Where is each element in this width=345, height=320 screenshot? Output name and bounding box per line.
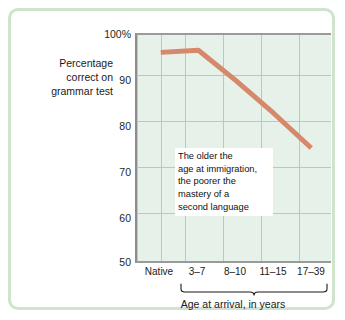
figure-frame: Percentage correct on grammar test 100% … [8,8,335,310]
y-axis-title: Percentage correct on grammar test [25,57,113,99]
y-axis-title-line: grammar test [25,85,113,99]
x-tick-label: 17–39 [297,267,325,277]
annotation-line: mastery of a [178,188,270,201]
x-tick-label: 3–7 [189,267,206,277]
y-tick-label: 60 [119,213,131,224]
y-tick-label: 70 [119,167,131,178]
y-tick-label: 80 [119,121,131,132]
y-tick-label: 50 [119,257,131,268]
annotation-line: age at immigration, [178,163,270,176]
y-axis-tick-labels: 100% 90 80 70 60 50 [101,33,131,263]
annotation-callout: The older the age at immigration, the po… [175,148,273,216]
y-tick-label: 100% [104,29,131,40]
y-axis-title-line: Percentage [25,57,113,71]
annotation-line: second language [178,201,270,214]
x-tick-label: 8–10 [224,267,246,277]
annotation-line: The older the [178,150,270,163]
x-axis-title: Age at arrival, in years [135,299,331,310]
brace-icon [135,283,331,297]
x-axis-tick-labels: Native 3–7 8–10 11–15 17–39 [135,267,331,283]
annotation-line: the poorer the [178,175,270,188]
x-tick-label: Native [145,267,173,277]
x-tick-label: 11–15 [259,267,286,277]
y-tick-label: 90 [119,75,131,86]
y-axis-title-line: correct on [25,71,113,85]
x-axis-group-brace [135,283,331,297]
